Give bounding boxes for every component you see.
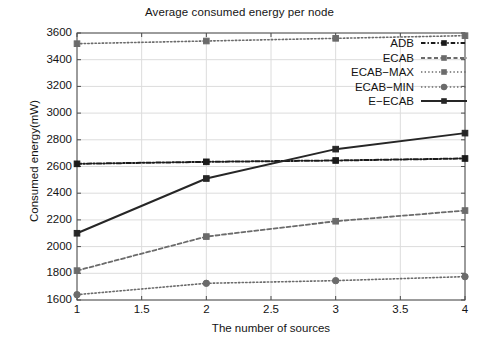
legend-sample-marker [441, 40, 447, 46]
data-point-marker [462, 130, 468, 136]
data-point-marker [462, 156, 468, 162]
legend-sample-marker [441, 84, 447, 90]
legend-item-adb[interactable]: ADB [318, 36, 468, 51]
x-axis-tick-label: 3.5 [380, 303, 420, 315]
data-point-marker [204, 159, 210, 165]
legend-item-ecab-max[interactable]: ECAB−MAX [318, 65, 468, 80]
legend-item-e-ecab[interactable]: E−ECAB [318, 94, 468, 109]
data-point-marker [462, 208, 468, 214]
legend-line-sample [420, 94, 468, 108]
x-axis-tick-label: 2.5 [251, 303, 291, 315]
data-point-marker [203, 280, 209, 286]
data-point-marker [333, 218, 339, 224]
legend-sample-marker [441, 98, 447, 104]
x-axis-title: The number of sources [77, 322, 465, 334]
legend-line-sample [420, 51, 468, 65]
x-axis-tick-label: 1 [57, 303, 97, 315]
data-point-marker [74, 161, 80, 167]
data-point-marker [462, 273, 468, 279]
chart-figure: Average consumed energy per node Consume… [0, 0, 479, 348]
data-point-marker [332, 277, 338, 283]
x-axis-tick-label: 3 [316, 303, 356, 315]
x-axis-tick-label: 1.5 [122, 303, 162, 315]
data-point-marker [74, 268, 80, 274]
data-point-marker [74, 230, 80, 236]
data-point-marker [74, 291, 80, 297]
chart-legend: ADBECABECAB−MAXECAB−MINE−ECAB [318, 36, 468, 109]
x-axis-tick-label: 4 [445, 303, 479, 315]
x-axis-tick-label: 2 [186, 303, 226, 315]
legend-item-ecab[interactable]: ECAB [318, 51, 468, 66]
legend-line-sample [420, 65, 468, 79]
legend-item-label: ADB [390, 37, 414, 49]
legend-sample-marker [441, 69, 447, 75]
data-point-marker [204, 234, 210, 240]
legend-item-label: ECAB [383, 52, 414, 64]
legend-line-sample [420, 80, 468, 94]
legend-line-sample [420, 36, 468, 50]
data-point-marker [333, 146, 339, 152]
data-point-marker [204, 38, 210, 44]
legend-item-label: ECAB−MAX [351, 66, 414, 78]
legend-item-label: E−ECAB [368, 95, 414, 107]
legend-item-label: ECAB−MIN [355, 81, 414, 93]
data-point-marker [204, 176, 210, 182]
legend-item-ecab-min[interactable]: ECAB−MIN [318, 80, 468, 95]
data-point-marker [74, 41, 80, 47]
legend-sample-marker [441, 55, 447, 61]
data-point-marker [333, 158, 339, 164]
